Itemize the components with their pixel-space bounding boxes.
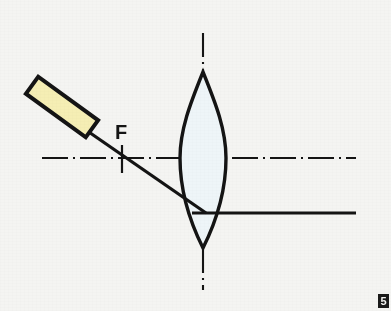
page-number-marker: 5 <box>378 294 389 308</box>
optics-figure: F 5 <box>0 0 391 311</box>
focal-point-label: F <box>115 121 127 143</box>
ray-diagram-canvas: F <box>0 0 391 311</box>
